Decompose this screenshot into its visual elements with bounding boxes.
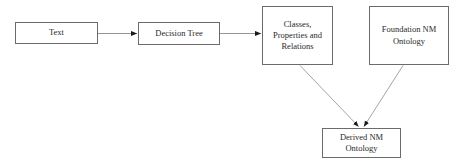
node-classes-properties-relations[interactable]: Classes, Properties and Relations (262, 6, 333, 65)
node-derived-nm-ontology-label: Derived NM Ontology (323, 132, 400, 154)
edge-foundation-to-derived (364, 66, 403, 127)
diagram-canvas: Text Decision Tree Classes, Properties a… (0, 0, 466, 165)
node-decision-tree-label: Decision Tree (139, 28, 219, 39)
node-text[interactable]: Text (15, 22, 98, 44)
node-decision-tree[interactable]: Decision Tree (138, 22, 220, 45)
edge-classes-to-derived (300, 66, 359, 127)
node-foundation-nm-ontology[interactable]: Foundation NM Ontology (369, 6, 449, 65)
node-classes-properties-relations-label: Classes, Properties and Relations (263, 19, 332, 53)
node-text-label: Text (16, 27, 97, 38)
node-foundation-nm-ontology-label: Foundation NM Ontology (370, 24, 448, 46)
node-derived-nm-ontology[interactable]: Derived NM Ontology (322, 128, 401, 158)
